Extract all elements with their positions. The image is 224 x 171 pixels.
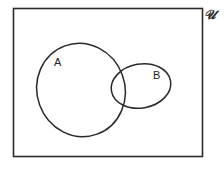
universe-label: 𝒰 (204, 7, 220, 22)
universe-rectangle (14, 9, 203, 157)
set-a-ellipse (24, 31, 139, 149)
venn-diagram: 𝒰 A B (0, 0, 224, 171)
set-b-ellipse (108, 59, 175, 113)
set-a-label: A (54, 56, 62, 68)
set-b-label: B (153, 69, 160, 81)
